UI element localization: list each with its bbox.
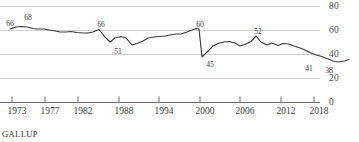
x-tick-1988: 1988 xyxy=(115,106,134,116)
x-tick-2006: 2006 xyxy=(236,106,255,116)
x-axis-ticks xyxy=(12,97,314,103)
point-label-2009: 52 xyxy=(254,27,262,36)
x-tick-2000: 2000 xyxy=(196,106,215,116)
point-label-1990: 66 xyxy=(97,20,105,29)
x-tick-1982: 1982 xyxy=(74,106,93,116)
x-tick-2012: 2012 xyxy=(277,106,296,116)
y-tick-40: 40 xyxy=(329,49,339,59)
union-approval-line xyxy=(10,27,349,63)
x-tick-1994: 1994 xyxy=(155,106,174,116)
point-label-1975: 68 xyxy=(24,13,32,22)
y-tick-0: 0 xyxy=(329,97,334,107)
x-tick-1977: 1977 xyxy=(41,106,60,116)
y-tick-60: 60 xyxy=(329,25,339,35)
point-label-2000: 60 xyxy=(196,20,204,29)
point-label-2016: 41 xyxy=(305,64,313,73)
source-attribution: GALLUP xyxy=(2,129,38,139)
gallup-line-chart: 80 60 40 20 0 1973 1977 1982 1988 1994 2… xyxy=(0,0,359,142)
x-tick-2018: 2018 xyxy=(310,106,329,116)
x-axis-line-group xyxy=(0,97,320,103)
point-label-1973: 66 xyxy=(6,19,14,28)
x-tick-1973: 1973 xyxy=(8,106,27,116)
y-tick-80: 80 xyxy=(329,1,339,11)
point-label-1994: 51 xyxy=(114,47,122,56)
point-label-2002: 45 xyxy=(206,60,214,69)
point-label-2018: 38 xyxy=(325,66,333,75)
